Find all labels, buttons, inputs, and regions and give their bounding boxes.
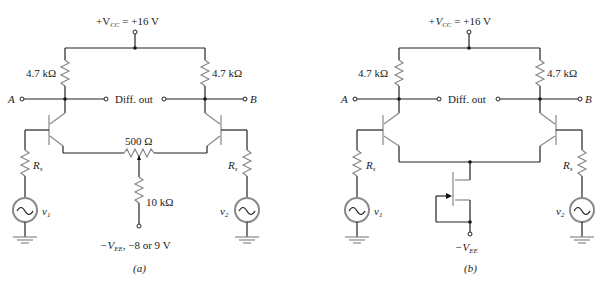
terminal-a-b <box>353 97 357 101</box>
v1-label-b: v1 <box>374 205 382 219</box>
caption-b: (b) <box>464 262 477 275</box>
bjt-left-b <box>357 99 399 162</box>
rs-left-resistor-a <box>21 150 29 176</box>
pot-label-a: 500 Ω <box>125 135 152 147</box>
rc-right-label-a: 4.7 kΩ <box>212 67 242 79</box>
vcc-label-a: +VCC = +16 V <box>96 15 159 29</box>
ground-icon <box>13 237 37 243</box>
terminal-a-label-a: A <box>7 93 15 105</box>
diff-out-label-a: Diff. out <box>115 93 153 105</box>
figure-a: +VCC = +16 V 4.7 kΩ 4.7 kΩ A Diff. out <box>7 15 259 275</box>
rs-left-label-b: Rs <box>365 159 376 173</box>
vcc-terminal-a <box>133 30 137 34</box>
bjt-right-a <box>205 99 247 153</box>
re-label-a: 10 kΩ <box>146 196 173 208</box>
rs-right-resistor-a <box>243 150 251 176</box>
circuit-diagrams: +VCC = +16 V 4.7 kΩ 4.7 kΩ A Diff. out <box>0 0 606 286</box>
v2-label-b: v2 <box>556 205 565 219</box>
ground-icon <box>570 237 594 243</box>
ground-icon <box>235 237 259 243</box>
rc-right-resistor-a <box>201 48 209 99</box>
vcc-terminal-b <box>467 30 471 34</box>
rs-left-resistor-b <box>353 150 361 176</box>
re-10k-resistor-a <box>135 170 143 224</box>
rc-right-resistor-b <box>536 48 544 99</box>
terminal-b-label-b: B <box>585 93 592 105</box>
terminal-b-b <box>578 97 582 101</box>
terminal-b-label-a: B <box>250 93 257 105</box>
rs-right-resistor-b <box>578 150 586 176</box>
vcc-label-b: +VCC = +16 V <box>428 15 491 29</box>
rc-left-label-b: 4.7 kΩ <box>358 67 388 79</box>
v1-label-a: v1 <box>42 205 50 219</box>
rc-left-resistor-a <box>61 48 69 99</box>
caption-a: (a) <box>133 262 146 275</box>
ground-icon <box>345 237 369 243</box>
rc-right-label-b: 4.7 kΩ <box>547 67 577 79</box>
vee-terminal-a <box>137 224 141 228</box>
diff-out-label-b: Diff. out <box>448 93 486 105</box>
v2-label-a: v2 <box>220 205 229 219</box>
rs-right-label-b: Rs <box>562 159 573 173</box>
vee-label-b: −VEE <box>455 241 478 255</box>
rs-left-label-a: Rs <box>32 159 43 173</box>
terminal-a-label-b: A <box>340 93 348 105</box>
fet-current-source-b <box>436 162 472 224</box>
bjt-right-b <box>540 99 582 162</box>
terminal-a-a <box>20 97 24 101</box>
rc-left-label-a: 4.7 kΩ <box>26 67 56 79</box>
rc-left-resistor-b <box>395 48 403 99</box>
bjt-left-a <box>25 99 65 153</box>
vee-terminal-b <box>468 232 472 236</box>
figure-b: +VCC = +16 V 4.7 kΩ 4.7 kΩ A Diff. out B <box>340 15 594 275</box>
terminal-b-a <box>243 97 247 101</box>
vee-label-a: −VEE, −8 or 9 V <box>100 239 171 253</box>
rs-right-label-a: Rs <box>227 159 238 173</box>
